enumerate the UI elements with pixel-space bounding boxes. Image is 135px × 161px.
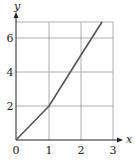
x-tick-2: 2 (78, 144, 85, 157)
y-tick-6: 6 (7, 32, 14, 45)
x-axis-label: x (126, 133, 133, 146)
y-axis-label: y (13, 0, 21, 13)
x-tick-1: 1 (46, 144, 53, 157)
x-tick-3: 3 (110, 144, 117, 157)
y-tick-2: 2 (7, 100, 14, 113)
y-tick-4: 4 (7, 66, 14, 79)
axes (16, 15, 121, 140)
chart: 0 1 2 3 2 4 6 x y (0, 0, 135, 161)
x-axis-arrow-icon (117, 138, 123, 143)
x-tick-0: 0 (13, 144, 20, 157)
data-line (16, 22, 102, 140)
